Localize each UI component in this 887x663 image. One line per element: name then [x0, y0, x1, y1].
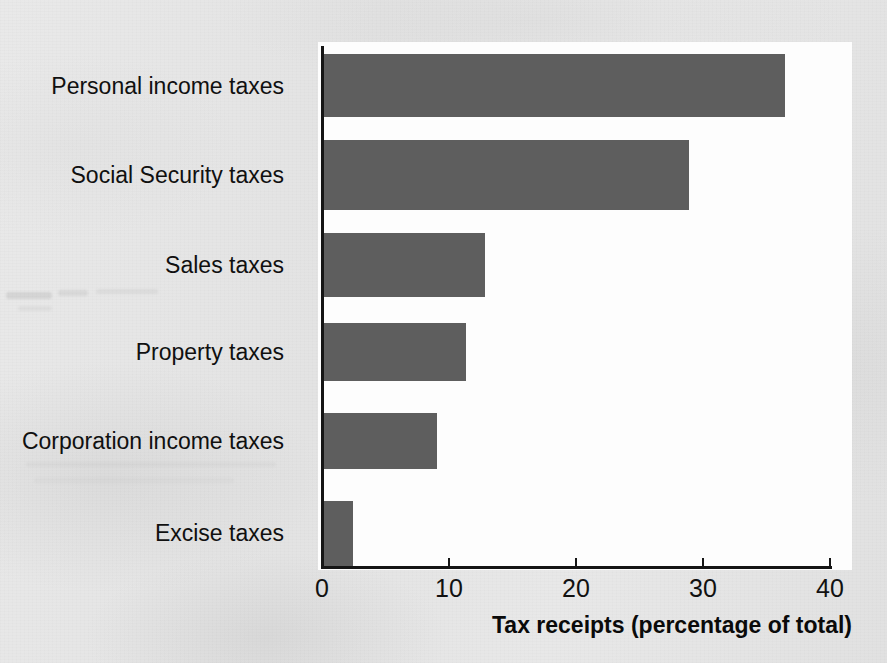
category-label-excise-taxes: Excise taxes — [155, 520, 284, 547]
x-tick-20 — [575, 558, 577, 568]
x-tick-30 — [702, 558, 704, 568]
bar-social-security-taxes — [323, 140, 689, 210]
x-axis-title: Tax receipts (percentage of total) — [492, 612, 852, 639]
category-label-corporation-income-taxes: Corporation income taxes — [22, 428, 284, 455]
x-tick-40 — [829, 558, 831, 568]
x-tick-0 — [321, 558, 323, 568]
bar-sales-taxes — [323, 233, 485, 297]
x-tick-label-30: 30 — [689, 574, 717, 603]
y-axis-line — [321, 46, 324, 568]
x-tick-label-10: 10 — [435, 574, 463, 603]
bar-corporation-income-taxes — [323, 413, 437, 469]
bar-excise-taxes — [323, 501, 353, 566]
x-tick-label-20: 20 — [562, 574, 590, 603]
plot-area — [318, 42, 852, 570]
category-label-social-security-taxes: Social Security taxes — [71, 162, 284, 189]
category-label-personal-income-taxes: Personal income taxes — [51, 73, 284, 100]
x-tick-10 — [448, 558, 450, 568]
category-label-sales-taxes: Sales taxes — [165, 252, 284, 279]
bar-property-taxes — [323, 323, 466, 381]
bar-chart-figure: 0 10 20 30 40 Personal income taxes Soci… — [0, 0, 887, 663]
category-label-property-taxes: Property taxes — [136, 339, 284, 366]
x-tick-label-0: 0 — [315, 574, 329, 603]
x-tick-label-40: 40 — [816, 574, 844, 603]
bar-personal-income-taxes — [323, 54, 785, 117]
